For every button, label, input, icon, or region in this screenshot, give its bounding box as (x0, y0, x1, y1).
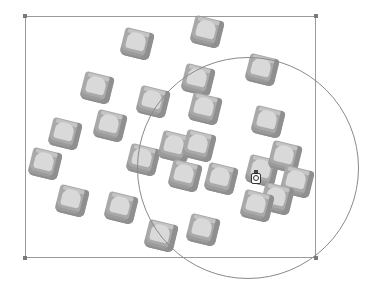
resize-handle-bottom-left[interactable] (23, 256, 27, 260)
resize-handle-top-left[interactable] (23, 14, 27, 18)
resize-handle-top-right[interactable] (314, 14, 318, 18)
resize-handle-bottom-right[interactable] (314, 256, 318, 260)
design-canvas[interactable] (0, 0, 372, 295)
jar-cursor-icon (251, 170, 261, 184)
cursor-mark (253, 175, 259, 181)
brush-radius-circle (137, 57, 359, 279)
